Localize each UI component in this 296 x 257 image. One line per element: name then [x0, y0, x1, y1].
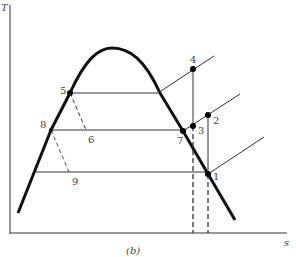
point-2 — [205, 112, 211, 118]
point-5 — [67, 90, 73, 96]
label-8: 8 — [40, 119, 46, 130]
figure-caption: (b) — [126, 245, 140, 256]
label-7: 7 — [177, 135, 183, 146]
point-4 — [190, 66, 196, 72]
label-9: 9 — [72, 176, 78, 187]
point-1 — [205, 171, 211, 177]
point-3 — [190, 123, 196, 129]
ts-diagram: T s 1 2 3 4 5 6 7 8 9 (b) — [0, 0, 296, 257]
dashed-8-to-9 — [51, 130, 69, 172]
label-5: 5 — [60, 85, 66, 96]
label-1: 1 — [213, 171, 219, 182]
s-axis-label: s — [284, 237, 289, 248]
label-2: 2 — [213, 115, 219, 126]
superheat-line-high — [158, 56, 214, 93]
t-axis-label: T — [1, 2, 9, 13]
label-6: 6 — [88, 134, 94, 145]
point-7 — [180, 128, 186, 134]
label-3: 3 — [198, 125, 204, 136]
label-4: 4 — [190, 54, 196, 65]
point-8 — [49, 128, 53, 132]
dashed-5-to-6 — [70, 93, 86, 130]
superheat-line-low — [208, 137, 264, 174]
